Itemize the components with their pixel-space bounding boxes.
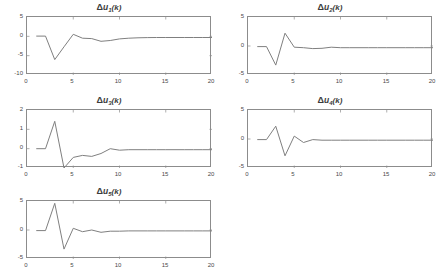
argument-k: (k) [112,187,122,196]
xtick-label-du4-4: 20 [424,171,440,177]
axes-box-du1 [26,16,211,74]
xtick-label-du1-1: 5 [64,78,80,84]
xtick-label-du3-1: 5 [64,171,80,177]
xtick-label-du4-1: 5 [285,171,301,177]
ytick-label-du4-0: 5 [225,106,244,112]
subplot-du2: Δu2(k) 5 0 -5 0 5 10 [225,2,443,92]
subplot-title-du1: Δu1(k) [0,2,218,15]
xtick-label-du1-2: 10 [110,78,126,84]
ytick-label-du2-2: -5 [225,70,244,76]
xtick-label-du2-4: 20 [424,78,440,84]
subplot-title-du5: Δu5(k) [0,186,218,199]
ytick-label-du3-3: -1 [2,163,23,169]
xtick-label-du2-0: 0 [239,78,255,84]
xtick-label-du1-3: 15 [157,78,173,84]
ytick-label-du4-2: -5 [225,163,244,169]
ytick-label-du3-0: 2 [4,106,23,112]
axes-box-du5 [26,200,211,258]
xtick-label-du3-3: 15 [157,171,173,177]
subplot-title-du4: Δu4(k) [225,95,435,108]
plot-line-du5 [27,201,212,259]
xtick-label-du4-0: 0 [239,171,255,177]
ytick-label-du1-1: 0 [4,32,23,38]
plot-line-du4 [248,110,433,168]
axes-box-du3 [26,109,211,167]
plot-line-du2 [248,17,433,75]
subplot-du3: Δu3(k) 2 1 0 [0,95,218,185]
xtick-label-du2-2: 10 [331,78,347,84]
ytick-label-du5-0: 5 [4,197,23,203]
xtick-label-du4-3: 15 [378,171,394,177]
xtick-label-du1-4: 20 [203,78,219,84]
xtick-label-du2-1: 5 [285,78,301,84]
xtick-label-du5-0: 0 [18,262,34,268]
axes-box-du4 [247,109,432,167]
xtick-label-du3-2: 10 [110,171,126,177]
subplot-du1: Δu1(k) 5 [0,2,218,92]
ytick-label-du2-1: 0 [225,42,244,48]
xtick-label-du4-2: 10 [331,171,347,177]
subplot-du4: Δu4(k) 5 0 -5 0 5 10 15 [225,95,443,185]
ytick-label-du1-2: -5 [4,51,23,57]
argument-k: (k) [112,96,122,105]
ytick-label-du2-0: 5 [225,13,244,19]
ytick-label-du3-1: 1 [4,125,23,131]
subplot-du5: Δu5(k) 5 0 -5 0 5 10 15 [0,186,218,276]
axes-box-du2 [247,16,432,74]
xtick-label-du5-1: 5 [64,262,80,268]
ytick-label-du5-2: -5 [2,254,23,260]
ytick-label-du5-1: 0 [4,226,23,232]
xtick-label-du2-3: 15 [378,78,394,84]
plot-line-du3 [27,110,212,168]
figure-canvas: Δu1(k) 5 [0,0,443,277]
argument-k: (k) [333,96,343,105]
argument-k: (k) [112,3,122,12]
subplot-title-du3: Δu3(k) [0,95,218,108]
ytick-label-du1-0: 5 [4,13,23,19]
xtick-label-du5-3: 15 [157,262,173,268]
xtick-label-du5-4: 20 [203,262,219,268]
xtick-label-du3-4: 20 [203,171,219,177]
plot-line-du1 [27,17,212,75]
ytick-label-du1-3: -10 [1,70,23,76]
xtick-label-du3-0: 0 [18,171,34,177]
ytick-label-du4-1: 0 [225,135,244,141]
subplot-title-du2: Δu2(k) [225,2,435,15]
xtick-label-du5-2: 10 [110,262,126,268]
xtick-label-du1-0: 0 [18,78,34,84]
ytick-label-du3-2: 0 [4,144,23,150]
argument-k: (k) [333,3,343,12]
